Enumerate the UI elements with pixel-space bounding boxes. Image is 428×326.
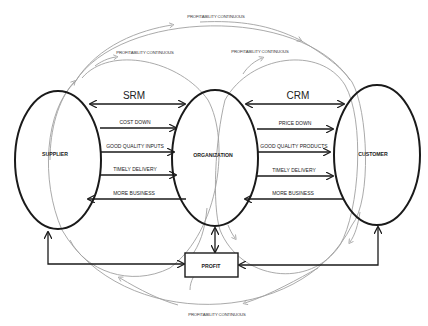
organization-label: ORGANIZATION xyxy=(193,152,233,158)
crm-cycle-label: PROFITABILITY CONTINUOUS xyxy=(231,49,288,54)
outer-cycle-top-label: PROFITABILITY CONTINUOUS xyxy=(187,14,244,19)
srm-label: SRM xyxy=(123,90,145,101)
customer-label: CUSTOMER xyxy=(358,151,388,157)
supplier-label: SUPPLIER xyxy=(42,151,68,157)
customer-profit-arrow xyxy=(239,227,378,265)
diagram-canvas xyxy=(0,0,428,326)
crm-label: CRM xyxy=(287,90,310,101)
crm-flow-label: GOOD QUALITY PRODUCTS xyxy=(260,143,327,149)
srm-flow-label: MORE BUSINESS xyxy=(113,190,155,196)
crm-flow-label: MORE BUSINESS xyxy=(272,190,314,196)
srm-flow-label: COST DOWN xyxy=(119,119,150,125)
srm-flow-label: GOOD QUALITY INPUTS xyxy=(106,143,164,149)
crm-flow-label: TIMELY DELIVERY xyxy=(272,167,316,173)
organization-node xyxy=(172,90,258,226)
crm-flow-label: PRICE DOWN xyxy=(279,120,312,126)
profit-label: PROFIT xyxy=(201,263,220,269)
supplier-profit-arrow xyxy=(48,232,184,264)
srm-cycle-label: PROFITABILITY CONTINUOUS xyxy=(116,50,173,55)
srm-flow-label: TIMELY DELIVERY xyxy=(113,166,157,172)
outer-cycle-bottom-label: PROFITABILITY CONTINUOUS xyxy=(188,312,245,317)
